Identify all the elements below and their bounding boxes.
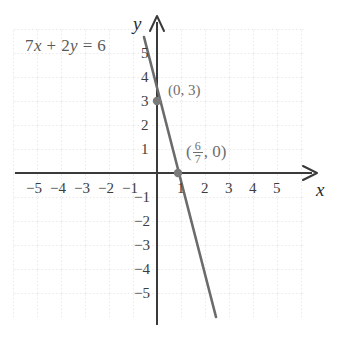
x-tick-label: 1	[177, 181, 185, 196]
x-axis-label: x	[316, 180, 324, 199]
point-label-x-intercept: (67, 0)	[186, 141, 226, 166]
equation-var-x: x	[34, 36, 42, 55]
x-tick-label: −3	[74, 181, 90, 196]
x-tick-label: 3	[225, 181, 233, 196]
y-tick-label: 5	[141, 46, 149, 61]
point-label-y-intercept: (0, 3)	[168, 83, 201, 98]
y-axis-label: y	[133, 14, 141, 33]
equation-constant: 6	[97, 36, 106, 55]
equation-plus: +	[47, 36, 57, 55]
y-tick-label: −2	[134, 214, 150, 229]
y-tick-label: −3	[134, 238, 150, 253]
point-label-open-paren: (	[186, 142, 192, 161]
coordinate-graph: 7x + 2y = 6 y x (0, 3) (67, 0) −5−4−3−2−…	[0, 0, 340, 337]
y-tick-label: −4	[134, 262, 150, 277]
x-tick-label: −4	[50, 181, 66, 196]
fraction-denominator: 7	[193, 152, 203, 165]
x-tick-label: 2	[201, 181, 209, 196]
point-marker-x-intercept	[174, 169, 182, 177]
y-tick-label: 4	[141, 70, 149, 85]
point-marker-y-intercept	[153, 97, 161, 105]
equation-label: 7x + 2y = 6	[25, 36, 106, 56]
fraction-numerator: 6	[193, 140, 203, 152]
x-tick-label: 4	[249, 181, 257, 196]
fraction-six-sevenths: 67	[193, 140, 203, 165]
equation-var-y: y	[70, 36, 78, 55]
equation-coef-x: 7	[25, 36, 34, 55]
y-tick-label: 1	[141, 142, 149, 157]
x-tick-label: −5	[26, 181, 42, 196]
point-label-suffix: , 0)	[204, 142, 227, 161]
y-tick-label: −5	[134, 286, 150, 301]
equation-equals: =	[83, 36, 93, 55]
equation-coef-y: 2	[61, 36, 70, 55]
y-tick-label: −1	[134, 190, 150, 205]
x-tick-label: −2	[98, 181, 114, 196]
y-tick-label: 3	[141, 94, 149, 109]
y-tick-label: 2	[141, 118, 149, 133]
x-tick-label: 5	[273, 181, 281, 196]
